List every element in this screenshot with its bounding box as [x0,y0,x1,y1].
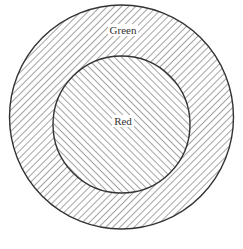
red-label-group: Red [112,115,134,127]
green-label: Green [110,24,137,36]
red-label: Red [114,115,132,127]
green-label-group: Green [108,24,138,36]
concentric-circle-diagram: Green Red [0,0,243,249]
